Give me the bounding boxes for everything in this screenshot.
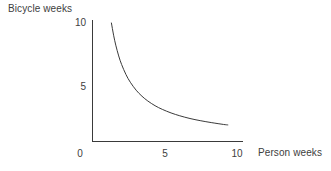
- x-tick-label-0: 0: [72, 148, 88, 159]
- chart-plot-area: [0, 0, 331, 171]
- x-tick-label-5: 5: [157, 148, 173, 159]
- y-axis-title: Bicycle weeks: [8, 3, 72, 14]
- x-axis-title: Person weeks: [258, 147, 322, 158]
- isoquant-curve: [111, 23, 227, 125]
- y-tick-label-5: 5: [62, 81, 86, 92]
- isoquant-chart: Bicycle weeks Person weeks 10 5 0 5 10: [0, 0, 331, 171]
- y-tick-label-10: 10: [62, 17, 86, 28]
- x-tick-label-10: 10: [228, 148, 246, 159]
